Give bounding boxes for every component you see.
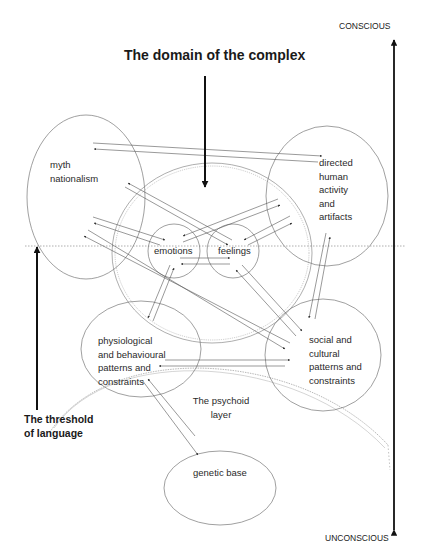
- directed-activity-label: directed human activity and artifacts: [319, 156, 353, 224]
- diagram-title: The domain of the complex: [124, 47, 305, 63]
- conscious-label: CONSCIOUS: [339, 20, 390, 34]
- emotions-label: emotions: [154, 244, 193, 258]
- myth-node: [27, 115, 145, 279]
- social-label: social and cultural patterns and constra…: [309, 333, 362, 387]
- physiological-label: physiological and behavioural patterns a…: [98, 334, 166, 388]
- domain-circle: [112, 163, 312, 343]
- genetic-base-label: genetic base: [193, 466, 247, 480]
- threshold-of-language-label: The threshold of language: [24, 412, 93, 440]
- unconscious-label: UNCONSCIOUS: [325, 532, 389, 546]
- myth-label: myth nationalism: [50, 158, 98, 185]
- psychoid-layer-label: The psychoid layer: [188, 394, 254, 421]
- genetic-base-node: [164, 451, 276, 525]
- feelings-label: feelings: [218, 244, 251, 258]
